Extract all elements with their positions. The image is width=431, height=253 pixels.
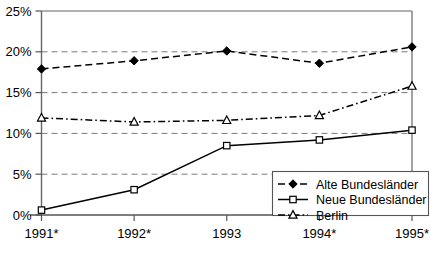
- legend-label: Berlin: [316, 209, 348, 223]
- legend-label: Alte Bundesländer: [316, 178, 418, 192]
- y-axis-tick-label: 15%: [5, 85, 31, 100]
- x-axis-tick-label: 1992*: [117, 226, 151, 241]
- y-axis-tick-label: 0%: [13, 208, 32, 223]
- x-axis-tick-label: 1991*: [25, 226, 59, 241]
- chart-container: 0%5%10%15%20%25% 1991*1992*19931994*1995…: [0, 0, 431, 253]
- data-point-marker: [409, 127, 415, 133]
- y-axis-tick-label: 10%: [5, 126, 31, 141]
- y-axis-tick-label: 5%: [13, 167, 32, 182]
- x-axis-tick-label: 1994*: [302, 226, 336, 241]
- line-chart: 0%5%10%15%20%25% 1991*1992*19931994*1995…: [0, 0, 431, 253]
- data-point-marker: [131, 187, 137, 193]
- y-axis-tick-label: 25%: [5, 4, 31, 19]
- legend-label: Neue Bundesländer: [316, 193, 427, 207]
- data-point-marker: [290, 196, 296, 202]
- x-axis-tick-label: 1995*: [395, 226, 429, 241]
- data-point-marker: [38, 207, 44, 213]
- data-point-marker: [224, 142, 230, 148]
- x-axis-tick-label: 1993: [212, 226, 241, 241]
- legend: Alte BundesländerNeue BundesländerBerlin: [273, 172, 429, 223]
- data-point-marker: [316, 137, 322, 143]
- y-axis-tick-label: 20%: [5, 44, 31, 59]
